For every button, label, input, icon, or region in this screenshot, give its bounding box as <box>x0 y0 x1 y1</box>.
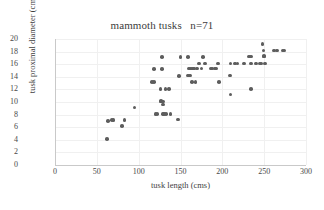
data-point <box>229 93 233 97</box>
data-point <box>282 49 286 53</box>
data-point <box>112 118 116 122</box>
x-tick-label: 0 <box>35 168 75 176</box>
y-tick-label: 10 <box>0 98 18 106</box>
scatter-chart: mammoth tusks n=71 02468101214161820 050… <box>0 0 324 210</box>
gridline-vertical <box>306 39 307 165</box>
data-point <box>261 42 265 46</box>
data-point <box>155 112 159 116</box>
data-point <box>179 55 183 59</box>
y-tick-label: 18 <box>0 48 18 56</box>
data-point <box>262 55 266 59</box>
data-point <box>194 80 198 84</box>
data-point <box>160 67 164 71</box>
x-axis-line <box>55 165 306 166</box>
data-point <box>249 87 253 91</box>
data-point <box>197 62 201 66</box>
data-point <box>105 137 109 141</box>
data-point <box>133 106 137 110</box>
y-tick-label: 14 <box>0 73 18 81</box>
data-point <box>169 112 173 116</box>
data-point <box>123 118 127 122</box>
data-point <box>200 67 204 71</box>
x-axis-title: tusk length (cms) <box>55 180 306 190</box>
plot-area <box>55 39 306 165</box>
data-point <box>228 74 232 78</box>
data-point <box>167 87 171 91</box>
x-tick-label: 200 <box>202 168 242 176</box>
x-tick-label: 300 <box>286 168 324 176</box>
data-point <box>164 112 168 116</box>
y-tick-label: 20 <box>0 35 18 43</box>
data-point <box>217 80 221 84</box>
data-point <box>161 103 165 107</box>
y-tick-label: 12 <box>0 85 18 93</box>
data-point <box>254 62 258 66</box>
data-point <box>177 74 181 78</box>
data-point <box>195 67 199 71</box>
gridline-vertical <box>97 39 98 165</box>
data-point <box>152 67 156 71</box>
data-point <box>120 124 124 128</box>
data-point <box>275 49 279 53</box>
data-point <box>152 80 156 84</box>
y-tick-label: 16 <box>0 60 18 68</box>
x-tick-label: 250 <box>244 168 284 176</box>
y-axis-title: tusk proximal diameter (cms) <box>27 0 37 107</box>
data-point <box>249 55 253 59</box>
y-tick-label: 8 <box>0 111 18 119</box>
gridline-vertical <box>139 39 140 165</box>
data-point <box>201 55 205 59</box>
y-tick-label: 6 <box>0 123 18 131</box>
data-point <box>106 119 110 123</box>
data-point <box>176 118 180 122</box>
data-point <box>215 67 219 71</box>
data-point <box>188 74 192 78</box>
x-tick-label: 50 <box>77 168 117 176</box>
chart-title: mammoth tusks n=71 <box>0 19 324 31</box>
gridline-vertical <box>222 39 223 165</box>
data-point <box>249 62 253 66</box>
x-tick-label: 150 <box>161 168 201 176</box>
x-tick-label: 100 <box>119 168 159 176</box>
data-point <box>186 55 190 59</box>
y-tick-label: 4 <box>0 136 18 144</box>
y-tick-label: 0 <box>0 161 18 169</box>
y-axis-line <box>55 39 56 166</box>
data-point <box>203 62 207 66</box>
data-point <box>160 55 164 59</box>
data-point <box>159 87 163 91</box>
y-tick-label: 2 <box>0 148 18 156</box>
